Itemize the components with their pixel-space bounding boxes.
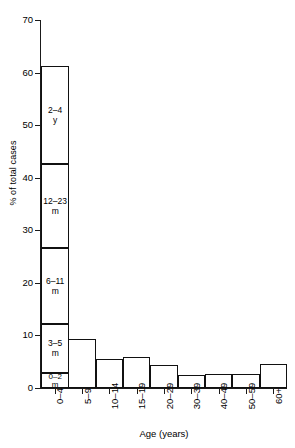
y-tick-70: 70 — [35, 20, 41, 21]
y-tick-label-60: 60 — [22, 67, 33, 78]
x-tick-label-60-plus: 60+ — [274, 388, 284, 404]
y-tick-label-10: 10 — [22, 329, 33, 340]
bar-segment-label-12-23-m: 12–23m — [42, 196, 68, 216]
bar-segment-label-2-4-y: 2–4y — [42, 105, 68, 125]
plot-area: 70 60 50 40 30 20 10 0 0–2m 3–5m — [41, 20, 287, 388]
y-tick-label-70: 70 — [22, 14, 33, 25]
bar-segment-label-0-2-m: 0–2m — [42, 373, 68, 389]
x-tick-60-plus: 60+ — [273, 388, 274, 394]
bar-segment-6-11-m[interactable]: 6–11m — [41, 248, 69, 324]
bar-60-plus[interactable] — [260, 364, 287, 388]
x-tick-20-29: 20–29 — [164, 388, 165, 394]
x-tick-label-15-19: 15–19 — [137, 383, 147, 409]
x-tick-label-40-49: 40–49 — [219, 383, 229, 409]
bar-segment-0-2-m[interactable]: 0–2m — [41, 373, 69, 389]
bar-segment-label-6-11-m: 6–11m — [42, 276, 68, 296]
y-tick-label-40: 40 — [22, 172, 33, 183]
x-tick-label-20-29: 20–29 — [165, 383, 175, 409]
x-tick-40-49: 40–49 — [219, 388, 220, 394]
y-tick-label-0: 0 — [28, 382, 33, 393]
bar-segment-2-4-y[interactable]: 2–4y — [41, 66, 69, 164]
x-tick-30-39: 30–39 — [191, 388, 192, 394]
x-tick-label-5-9: 5–9 — [83, 388, 93, 404]
x-tick-5-9: 5–9 — [82, 388, 83, 394]
bar-segment-label-3-5-m: 3–5m — [42, 338, 68, 358]
y-tick-label-50: 50 — [22, 119, 33, 130]
x-tick-label-50-59: 50–59 — [247, 383, 257, 409]
x-tick-10-14: 10–14 — [109, 388, 110, 394]
y-axis-title: % of total cases — [8, 108, 18, 238]
x-tick-0-4: 0–4 — [55, 388, 56, 394]
y-tick-label-20: 20 — [22, 277, 33, 288]
x-tick-label-0-4: 0–4 — [55, 388, 65, 404]
chart-container: % of total cases 70 60 50 40 30 20 10 0 — [0, 0, 295, 448]
bar-segment-12-23-m[interactable]: 12–23m — [41, 164, 69, 248]
x-tick-label-10-14: 10–14 — [110, 383, 120, 409]
x-tick-label-30-39: 30–39 — [192, 383, 202, 409]
bar-0-4[interactable]: 0–2m 3–5m 6–11m 12–23m 2–4y — [41, 67, 68, 388]
x-tick-15-19: 15–19 — [137, 388, 138, 394]
y-tick-label-30: 30 — [22, 224, 33, 235]
bar-5-9[interactable] — [68, 339, 95, 388]
bar-segment-3-5-m[interactable]: 3–5m — [41, 324, 69, 373]
x-tick-50-59: 50–59 — [246, 388, 247, 394]
x-axis-title: Age (years) — [41, 428, 287, 439]
